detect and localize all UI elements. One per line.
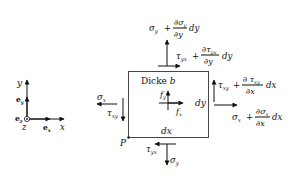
sigma-x-right-label: σx + ∂σx ∂x dx	[232, 107, 282, 128]
sigma-y-top-label: σy + ∂σy ∂y dy	[149, 18, 199, 39]
dx-label: dx	[161, 126, 172, 136]
svg-text:∂x: ∂x	[246, 87, 255, 96]
x-axis-label: x	[60, 122, 65, 132]
ey-label: ey	[16, 95, 25, 106]
y-axis-label: y	[16, 78, 23, 88]
svg-text:dy: dy	[222, 51, 232, 61]
svg-text:τyx: τyx	[176, 51, 188, 63]
svg-text:∂σx: ∂σx	[256, 107, 269, 117]
thickness-label: Dicke b	[141, 76, 176, 86]
corner-point-p	[127, 136, 129, 138]
svg-text:+: +	[233, 80, 240, 90]
z-axis-dot-icon	[26, 118, 28, 120]
svg-text:∂y: ∂y	[204, 57, 213, 66]
plane-stress-diagram: y ey ez z ex x Dicke b dy dx P fy fx σx …	[0, 0, 295, 178]
body-force-x-label: fx	[175, 107, 182, 117]
svg-text:∂σy: ∂σy	[174, 18, 187, 29]
svg-text:dx: dx	[266, 80, 276, 90]
svg-text:∂ τxy: ∂ τxy	[243, 75, 260, 86]
svg-text:σx: σx	[232, 112, 242, 123]
coordinate-system: y ey ez z ex x	[15, 78, 65, 133]
svg-text:+: +	[164, 23, 171, 33]
sigma-y-bottom-label: σy	[170, 155, 180, 167]
svg-text:+: +	[192, 51, 199, 61]
dy-label: dy	[195, 98, 207, 108]
tau-yx-top-label: τyx + ∂τyx ∂y dy	[176, 45, 232, 66]
point-p-label: P	[119, 138, 127, 148]
z-axis-label: z	[21, 122, 27, 132]
tau-xy-right-label: τxy + ∂ τxy ∂x dx	[218, 75, 276, 96]
svg-text:+: +	[246, 112, 253, 122]
tau-xy-left-label: τxy	[107, 108, 119, 120]
svg-text:∂x: ∂x	[256, 119, 265, 128]
svg-text:∂y: ∂y	[174, 30, 183, 39]
svg-text:∂τyx: ∂τyx	[202, 45, 216, 56]
svg-text:dy: dy	[189, 23, 199, 33]
ex-label: ex	[43, 123, 52, 133]
tau-yx-bottom-label: τyx	[146, 144, 158, 156]
svg-text:σy: σy	[149, 23, 159, 35]
svg-text:τxy: τxy	[218, 80, 230, 92]
body-force-y-label: fy	[159, 90, 166, 101]
svg-text:dx: dx	[272, 112, 282, 122]
sigma-x-left-label: σx	[97, 92, 107, 103]
